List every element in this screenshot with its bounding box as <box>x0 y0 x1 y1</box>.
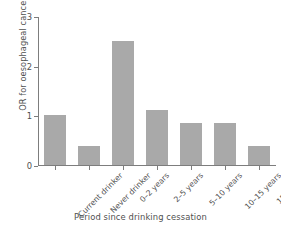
bar <box>180 123 201 165</box>
x-axis-title: Period since drinking cessation <box>0 212 281 222</box>
y-tick-label: 3 <box>27 12 32 22</box>
y-tick-label: 1 <box>27 111 32 121</box>
x-tick-mark <box>259 166 260 170</box>
bar <box>78 146 99 165</box>
x-tick-mark <box>123 166 124 170</box>
x-tick-mark <box>157 166 158 170</box>
x-tick-mark <box>55 166 56 170</box>
x-tick-mark <box>191 166 192 170</box>
y-tick-mark <box>34 166 38 167</box>
y-tick-label: 2 <box>27 62 32 72</box>
x-tick-mark <box>89 166 90 170</box>
y-axis-line <box>38 17 39 166</box>
bar <box>112 41 133 165</box>
y-tick-label: 0 <box>27 161 32 171</box>
bar <box>146 110 167 165</box>
bar <box>248 146 269 165</box>
y-tick-mark <box>34 116 38 117</box>
bar <box>214 123 235 165</box>
x-tick-label: 2–5 years <box>172 171 205 204</box>
x-tick-label: 5–10 years <box>208 171 245 208</box>
bar <box>44 115 65 165</box>
plot-area: 0123 <box>38 17 276 166</box>
x-tick-label: 10–15 years <box>243 171 281 211</box>
y-tick-mark <box>34 67 38 68</box>
y-tick-mark <box>34 17 38 18</box>
x-tick-mark <box>225 166 226 170</box>
bar-chart-figure: OR for oesophageal cancer 0123 Current d… <box>0 0 281 239</box>
